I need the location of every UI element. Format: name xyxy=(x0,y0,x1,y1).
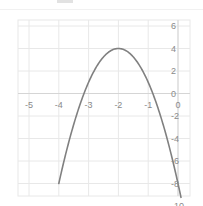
axes-group xyxy=(18,20,190,196)
x-tick-label: -3 xyxy=(79,100,99,110)
gridlines-group xyxy=(18,20,190,196)
y-tick-label: -10 xyxy=(171,201,184,206)
x-tick-label: 0 xyxy=(168,100,188,110)
y-tick-label: 2 xyxy=(171,66,176,76)
y-tick-label: -8 xyxy=(171,179,179,189)
x-tick-label: -5 xyxy=(19,100,39,110)
chart-figure: -5-4-3-2-10 6420-2-4-6-8-10 xyxy=(0,0,203,206)
plot-frame xyxy=(18,20,190,196)
x-tick-label: -4 xyxy=(49,100,69,110)
y-tick-label: -4 xyxy=(171,134,179,144)
x-tick-label: -2 xyxy=(108,100,128,110)
y-tick-label: -2 xyxy=(171,111,179,121)
x-tick-label: -1 xyxy=(138,100,158,110)
y-tick-label: 4 xyxy=(171,44,176,54)
y-tick-label: 0 xyxy=(171,89,176,99)
y-tick-label: 6 xyxy=(171,21,176,31)
y-tick-label: -6 xyxy=(171,156,179,166)
